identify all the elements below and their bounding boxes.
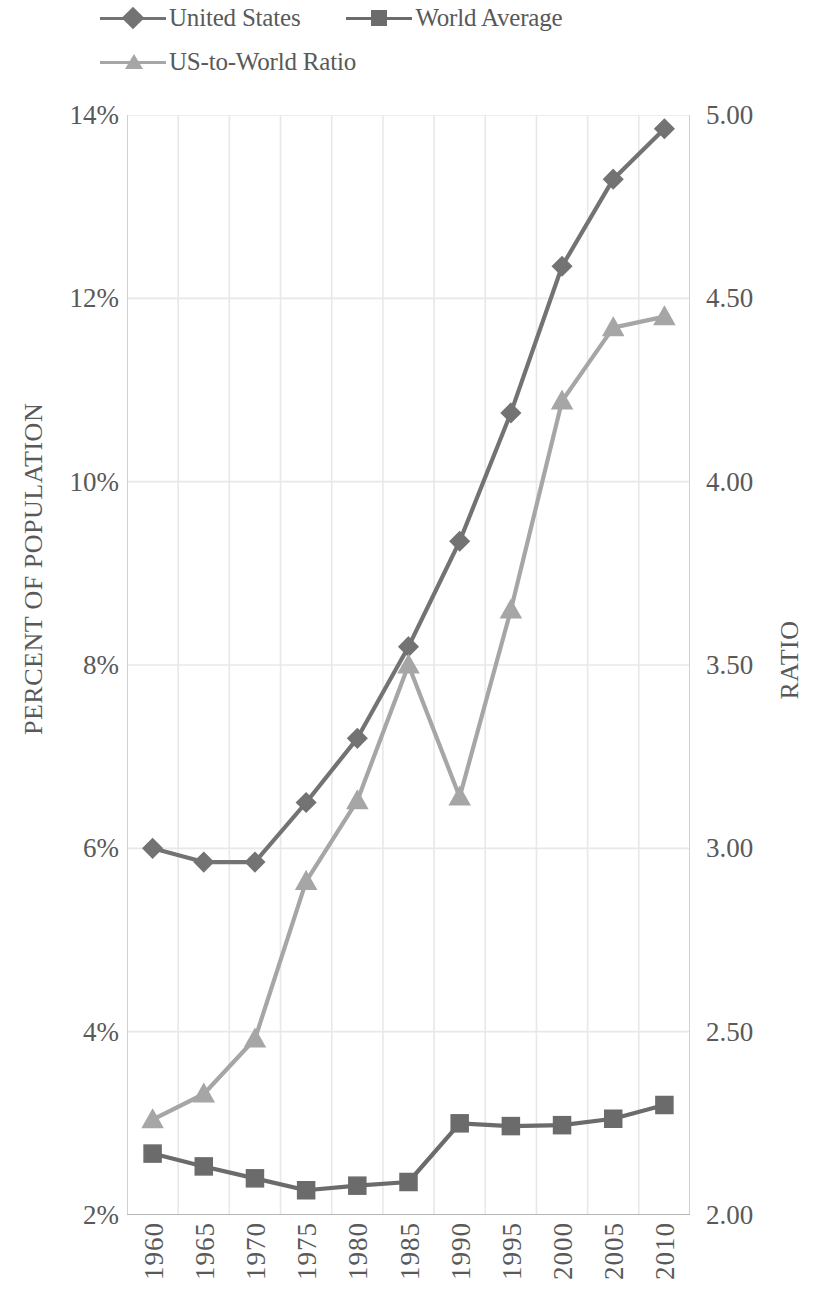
series-layer	[143, 119, 675, 1199]
x-tick-label: 1960	[139, 1222, 170, 1280]
x-tick-label: 1975	[292, 1222, 323, 1280]
plot-area	[127, 115, 690, 1215]
x-tick-label: 1980	[343, 1222, 374, 1280]
diamond-marker-icon	[450, 532, 469, 551]
y-tick-label-left: 8%	[83, 650, 119, 681]
y-tick-label-right: 3.50	[706, 650, 753, 681]
y-tick-label-left: 12%	[70, 283, 120, 314]
y-tick-label-right: 4.50	[706, 283, 753, 314]
x-tick-label: 2010	[650, 1222, 681, 1280]
triangle-marker-icon	[654, 307, 674, 325]
square-marker-icon	[502, 1118, 519, 1135]
y-tick-label-right: 5.00	[706, 100, 753, 131]
x-tick-label: 2000	[548, 1222, 579, 1280]
square-marker-icon	[451, 1115, 468, 1132]
triangle-marker-icon	[143, 1110, 163, 1128]
series-united-states	[143, 119, 674, 871]
diamond-marker-icon	[501, 403, 520, 422]
diamond-marker-icon	[194, 853, 213, 872]
series-world-average	[144, 1097, 673, 1199]
y-axis-ticks-right: 5.004.504.003.503.002.502.00	[706, 115, 796, 1215]
y-tick-label-right: 2.00	[706, 1200, 753, 1231]
x-tick-label: 1970	[241, 1222, 272, 1280]
y-axis-ticks-left: 14%12%10%8%6%4%2%	[27, 115, 119, 1215]
diamond-marker-icon	[399, 637, 418, 656]
y-tick-label-left: 6%	[83, 833, 119, 864]
chart: PERCENT OF POPULATION RATIO 14%12%10%8%6…	[0, 0, 818, 1316]
y-tick-label-right: 2.50	[706, 1016, 753, 1047]
triangle-marker-icon	[501, 600, 521, 618]
square-marker-icon	[400, 1174, 417, 1191]
y-tick-label-left: 10%	[70, 466, 120, 497]
square-marker-icon	[656, 1097, 673, 1114]
square-marker-icon	[246, 1170, 263, 1187]
x-tick-label: 1985	[395, 1222, 426, 1280]
x-tick-label: 1965	[190, 1222, 221, 1280]
x-tick-label: 2005	[599, 1222, 630, 1280]
y-tick-label-left: 4%	[83, 1016, 119, 1047]
y-tick-label-right: 4.00	[706, 466, 753, 497]
plot-svg	[127, 115, 690, 1215]
y-tick-label-left: 14%	[70, 100, 120, 131]
x-tick-label: 1990	[446, 1222, 477, 1280]
square-marker-icon	[298, 1182, 315, 1199]
y-tick-label-right: 3.00	[706, 833, 753, 864]
diamond-marker-icon	[553, 257, 572, 276]
x-tick-label: 1995	[497, 1222, 528, 1280]
square-marker-icon	[349, 1177, 366, 1194]
square-marker-icon	[195, 1158, 212, 1175]
square-marker-icon	[605, 1110, 622, 1127]
y-tick-label-left: 2%	[83, 1200, 119, 1231]
series-us-to-world-ratio	[143, 307, 675, 1128]
x-axis-ticks: 1960196519701975198019851990199520002005…	[127, 1222, 690, 1316]
triangle-marker-icon	[347, 791, 367, 809]
square-marker-icon	[144, 1145, 161, 1162]
triangle-marker-icon	[450, 787, 470, 805]
square-marker-icon	[554, 1117, 571, 1134]
diamond-marker-icon	[143, 839, 162, 858]
